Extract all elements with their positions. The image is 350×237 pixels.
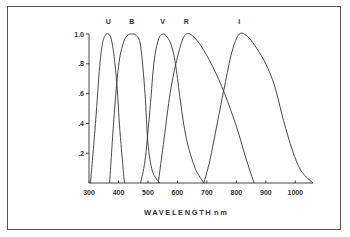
x-tick-label: 400 [113,189,125,196]
curve-r [158,34,254,184]
y-tick-label: .4 [78,120,84,127]
x-axis-unit: nm [214,208,228,217]
y-tick-label: .8 [78,60,84,67]
y-tick-label: 1.0 [74,31,84,38]
curve-u [91,34,125,183]
x-tick-label: 300 [83,189,95,196]
band-label-u: U [106,18,111,25]
x-tick-label: 800 [231,189,243,196]
x-tick-label: 900 [260,189,272,196]
band-label-v: V [160,18,165,25]
band-label-r: R [184,18,189,25]
x-tick-label: 500 [142,189,154,196]
x-tick-label: 700 [201,189,213,196]
y-tick-label: .2 [78,150,84,157]
band-label-i: I [238,18,240,25]
x-tick-label: 600 [172,189,184,196]
filter-response-chart: .2.4.6.81.03004005006007008009001000 UBV… [0,0,350,237]
curves [91,33,314,183]
curve-i [204,33,313,183]
x-tick-label: 1000 [288,189,304,196]
band-label-b: B [129,18,134,25]
curve-b [110,34,160,183]
band-labels: UBVRI [106,18,241,25]
y-tick-label: .6 [78,90,84,97]
x-axis-title: WAVELENGTH [144,208,212,217]
